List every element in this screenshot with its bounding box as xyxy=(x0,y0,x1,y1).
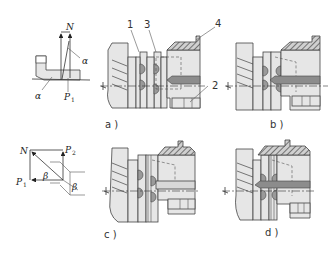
label-p1: P xyxy=(63,92,71,102)
svg-text:2: 2 xyxy=(72,149,76,156)
panel-a: 1 3 4 2 a ) xyxy=(100,18,221,130)
label-beta-outer: β xyxy=(71,182,77,192)
force-diagram-beta: N P 2 P 1 β β xyxy=(15,145,85,195)
diagram-canvas: N α α P 1 N P 2 P 1 β β xyxy=(0,0,332,255)
label-p2: P xyxy=(64,145,72,155)
label-alpha-lower: α xyxy=(35,91,41,101)
label-p1: P xyxy=(15,177,23,187)
force-diagram-alpha: N α α P 1 xyxy=(32,22,90,103)
label-n: N xyxy=(19,146,29,156)
label-beta-inner: β xyxy=(42,171,48,181)
caption-c: c ) xyxy=(104,229,117,240)
caption-a: a ) xyxy=(105,119,118,130)
panel-c: c ) xyxy=(102,141,200,240)
panel-b: b ) xyxy=(225,36,328,130)
label-alpha-upper: α xyxy=(82,56,88,66)
label-n: N xyxy=(65,22,75,32)
svg-text:1: 1 xyxy=(23,181,27,188)
callout-2: 2 xyxy=(212,80,218,91)
svg-text:1: 1 xyxy=(71,96,75,103)
callout-3: 3 xyxy=(144,19,150,30)
caption-d: d ) xyxy=(265,227,279,238)
callout-4: 4 xyxy=(215,18,221,29)
panel-d: d ) xyxy=(222,140,315,238)
callout-1: 1 xyxy=(127,19,133,30)
caption-b: b ) xyxy=(270,119,284,130)
